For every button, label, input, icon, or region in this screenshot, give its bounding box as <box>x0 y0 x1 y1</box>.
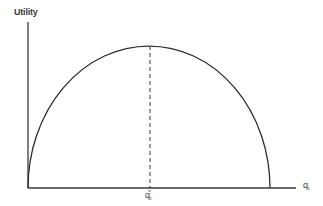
xlabel-subscript: i <box>308 185 309 191</box>
x-axis-label: qi <box>303 180 309 191</box>
y-axis-label: Utility <box>14 7 38 17</box>
utility-chart <box>0 0 323 206</box>
optimum-tick-label: qi* <box>145 189 151 201</box>
utility-curve <box>28 46 270 188</box>
tick-superscript: * <box>148 189 150 195</box>
tick-subscript: i <box>150 195 151 201</box>
